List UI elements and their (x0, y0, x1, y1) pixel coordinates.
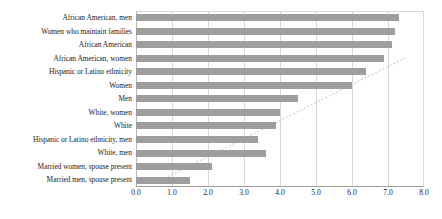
bar (136, 150, 266, 157)
bar-row: White, men (0, 146, 442, 160)
bar (136, 122, 276, 129)
bar (136, 55, 384, 62)
bar-row: Married women, spouse present (0, 160, 442, 174)
bar (136, 28, 395, 35)
bar (136, 14, 399, 21)
bar-row: African American (0, 38, 442, 52)
x-tick-label: 7.0 (383, 188, 393, 197)
x-tick-label: 8.0 (419, 188, 429, 197)
x-tick-label: 5.0 (311, 188, 321, 197)
bar-row: Men (0, 92, 442, 106)
bar-row: African American, men (0, 11, 442, 25)
category-label: White, women (0, 106, 132, 120)
bar-row: African American, women (0, 52, 442, 66)
x-axis-ticks: 0.01.02.03.04.05.06.07.08.0 (0, 188, 442, 204)
bar-row: Women who maintain families (0, 25, 442, 39)
category-label: Women (0, 79, 132, 93)
category-label: Hispanic or Latino ethnicity, men (0, 133, 132, 147)
category-label: White, men (0, 146, 132, 160)
category-label: Women who maintain families (0, 25, 132, 39)
category-label: African American, women (0, 52, 132, 66)
bar-row: Hispanic or Latino ethnicity, men (0, 133, 442, 147)
bar (136, 136, 258, 143)
bar-row: White, women (0, 106, 442, 120)
x-tick-label: 1.0 (167, 188, 177, 197)
bar (136, 68, 366, 75)
bar (136, 163, 212, 170)
bar-chart: African American, menWomen who maintain … (0, 0, 442, 219)
category-label: African American (0, 38, 132, 52)
bar-row: Hispanic or Latino ethnicity (0, 65, 442, 79)
category-label: White (0, 119, 132, 133)
bar (136, 95, 298, 102)
bar-rows: African American, menWomen who maintain … (0, 11, 442, 187)
x-tick-label: 2.0 (203, 188, 213, 197)
category-label: Hispanic or Latino ethnicity (0, 65, 132, 79)
bar-row: White (0, 119, 442, 133)
category-label: Married men, spouse present (0, 173, 132, 187)
bar (136, 82, 352, 89)
category-label: Married women, spouse present (0, 160, 132, 174)
x-tick-label: 6.0 (347, 188, 357, 197)
x-tick-label: 0.0 (131, 188, 141, 197)
x-tick-label: 3.0 (239, 188, 249, 197)
x-tick-label: 4.0 (275, 188, 285, 197)
bar (136, 177, 190, 184)
bar (136, 41, 392, 48)
bar (136, 109, 280, 116)
category-label: African American, men (0, 11, 132, 25)
category-label: Men (0, 92, 132, 106)
bar-row: Married men, spouse present (0, 173, 442, 187)
bar-row: Women (0, 79, 442, 93)
